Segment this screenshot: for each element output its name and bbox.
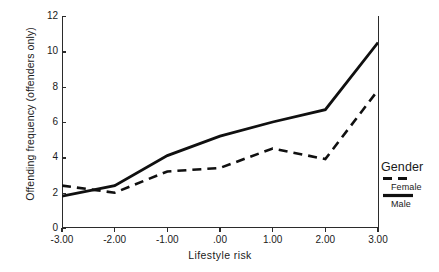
x-tick-label: 1.00 <box>250 234 296 245</box>
chart-legend: Gender Female Male <box>381 160 439 209</box>
x-tick-mark <box>167 228 168 232</box>
y-tick-label: 12 <box>24 10 58 21</box>
chart-figure: Offending frequency (offenders only) 024… <box>0 0 439 272</box>
legend-entry-male: Male <box>381 193 439 209</box>
legend-label-male: Male <box>391 199 439 209</box>
x-tick-mark <box>219 228 220 232</box>
legend-title: Gender <box>381 160 439 174</box>
legend-entry-female: Female <box>381 176 439 192</box>
x-tick-mark <box>325 228 326 232</box>
y-tick-label: 10 <box>24 45 58 56</box>
x-tick-label: -2.00 <box>92 234 138 245</box>
line-series-male <box>62 43 378 197</box>
line-series-female <box>62 90 378 192</box>
legend-swatch-dashed <box>383 176 439 181</box>
y-tick-label: 0 <box>24 222 58 233</box>
y-tick-label: 8 <box>24 81 58 92</box>
x-axis-title: Lifestyle risk <box>62 249 378 261</box>
y-tick-label: 2 <box>24 187 58 198</box>
x-tick-label: 3.00 <box>355 234 401 245</box>
plot-right-edge <box>378 16 379 228</box>
x-tick-label: .00 <box>197 234 243 245</box>
legend-label-female: Female <box>391 182 439 192</box>
x-tick-mark <box>114 228 115 232</box>
plot-area <box>62 16 378 228</box>
y-axis-ticks: 024681012 <box>18 16 58 228</box>
x-tick-mark <box>272 228 273 232</box>
x-tick-label: 2.00 <box>302 234 348 245</box>
x-tick-mark <box>61 228 62 232</box>
x-tick-mark <box>377 228 378 232</box>
x-tick-label: -3.00 <box>39 234 85 245</box>
x-tick-label: -1.00 <box>144 234 190 245</box>
y-tick-label: 4 <box>24 151 58 162</box>
x-axis-ticks: -3.00-2.00-1.00.001.002.003.00 <box>62 228 378 250</box>
y-tick-label: 6 <box>24 116 58 127</box>
legend-swatch-solid <box>383 193 439 198</box>
